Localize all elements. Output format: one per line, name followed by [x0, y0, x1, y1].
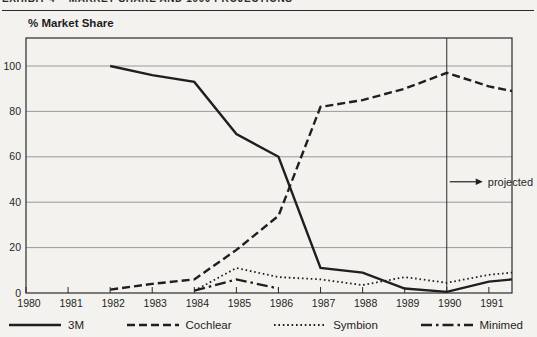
plot-border — [26, 38, 512, 293]
projected-label: projected — [488, 176, 533, 188]
y-axis-tick-label: 40 — [9, 196, 21, 208]
x-axis-tick-label: 1983 — [144, 297, 168, 309]
legend-line-sample-dashed — [126, 321, 180, 329]
legend-label: Symbion — [333, 319, 378, 331]
x-axis-tick-label: 1986 — [270, 297, 294, 309]
y-axis-tick-label: 60 — [9, 150, 21, 162]
legend-line-sample-dashdot — [420, 321, 474, 329]
legend-label: Minimed — [480, 319, 523, 331]
legend-label: 3M — [68, 319, 84, 331]
legend-item-cochlear: Cochlear — [126, 319, 232, 331]
x-axis-tick-label: 1991 — [480, 297, 504, 309]
projected-arrow-head — [476, 179, 483, 185]
x-axis-tick-label: 1982 — [101, 297, 125, 309]
legend-label: Cochlear — [186, 319, 232, 331]
chart-legend: 3MCochlearSymbionMinimed — [8, 314, 523, 336]
legend-item-symbion: Symbion — [273, 319, 378, 331]
x-axis-tick-label: 1985 — [228, 297, 252, 309]
series-line-3m — [110, 66, 512, 292]
x-axis-tick-label: 1989 — [396, 297, 420, 309]
x-axis-tick-label: 1987 — [312, 297, 336, 309]
exhibit-page: EXHIBIT 4 MARKET SHARE AND 1990 PROJECTI… — [0, 0, 537, 337]
x-axis-tick-label: 1981 — [59, 297, 83, 309]
legend-line-sample-solid — [8, 321, 62, 329]
y-axis-tick-label: 80 — [9, 105, 21, 117]
market-share-line-chart: 0204060801001980198119821983198419851986… — [0, 0, 537, 337]
x-axis-tick-label: 1988 — [354, 297, 378, 309]
x-axis-tick-label: 1984 — [186, 297, 210, 309]
x-axis-tick-label: 1980 — [17, 297, 41, 309]
y-axis-tick-label: 20 — [9, 241, 21, 253]
legend-line-sample-dotted — [273, 321, 327, 329]
x-axis-tick-label: 1990 — [438, 297, 462, 309]
y-axis-tick-label: 100 — [3, 60, 21, 72]
legend-item-minimed: Minimed — [420, 319, 523, 331]
legend-item-3m: 3M — [8, 319, 84, 331]
